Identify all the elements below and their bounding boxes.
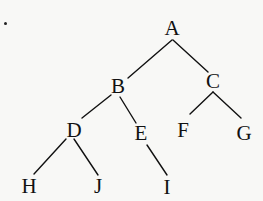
tree-diagram: A B C D E F G H J I [0,0,263,201]
node-c: C [206,71,220,92]
edge-b-e [120,97,136,123]
node-h: H [21,176,36,197]
edge-c-f [190,92,213,114]
node-i: I [164,177,171,198]
edge-d-j [74,139,98,175]
node-j: J [94,176,102,197]
node-a: A [164,18,179,39]
node-d: D [66,120,81,141]
node-g: G [236,123,251,144]
node-e: E [135,123,148,144]
node-b: B [111,76,125,97]
edge-d-h [34,139,66,174]
edge-a-b [128,40,172,78]
edge-b-d [82,95,111,118]
edge-e-i [147,145,167,175]
edge-c-g [213,92,241,118]
node-f: F [177,120,189,141]
edge-a-c [173,40,208,72]
marker-dot [4,22,7,25]
tree-edges [0,0,263,201]
